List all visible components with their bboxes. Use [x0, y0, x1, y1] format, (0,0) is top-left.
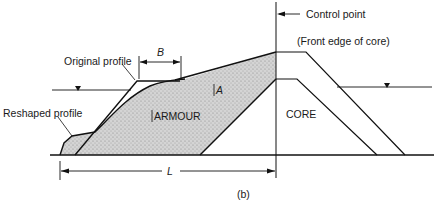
armour-outer-outline	[276, 52, 405, 155]
armour-shaded-area	[60, 52, 276, 155]
control-point-arrowhead	[277, 12, 285, 17]
area-a-label: A	[216, 85, 223, 96]
front-edge-label: (Front edge of core)	[297, 36, 390, 47]
l-dim-arrow-left	[61, 169, 69, 174]
width-b-label: B	[157, 47, 164, 58]
reshaped-profile-leader	[58, 117, 72, 136]
length-l-label: L	[167, 166, 173, 177]
original-profile-label: Original profile	[64, 56, 132, 67]
armour-label: ARMOUR	[154, 111, 201, 122]
figure-caption: (b)	[237, 189, 250, 200]
b-dim-arrow-right	[173, 60, 180, 65]
core-label: CORE	[286, 109, 316, 120]
control-point-label: Control point	[306, 9, 366, 20]
b-dim-arrow-left	[140, 60, 147, 65]
l-dim-arrow-right	[267, 169, 275, 174]
reshaped-profile-label: Reshaped profile	[3, 108, 82, 119]
breakwater-profile-diagram	[0, 0, 434, 205]
